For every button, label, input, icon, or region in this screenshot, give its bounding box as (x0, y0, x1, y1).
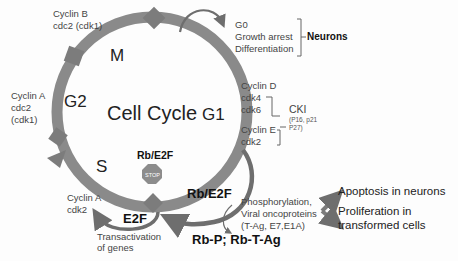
fork-arrow-down-icon (322, 211, 335, 222)
cdk6-label: cdk6 (241, 104, 261, 115)
viral-oncoproteins-label: Viral oncoproteins (241, 208, 317, 219)
oncoprotein-list-label: (T-Ag, E7,E1A) (241, 220, 305, 231)
transformed-cells-label: transformed cells (338, 219, 426, 231)
fork-arrow-up-icon (322, 198, 335, 211)
cell-cycle-title: Cell Cycle (107, 102, 197, 124)
cyclin-a-g2-label: Cyclin A (11, 90, 46, 101)
cyclin-a-s-label: Cyclin A (67, 192, 102, 203)
e2f-label: E2F (123, 211, 147, 226)
cyclin-d-bracket (266, 97, 280, 116)
phosphorylation-label: Phosphorylation, (241, 196, 312, 207)
phase-g2: G2 (64, 92, 87, 111)
cyclin-a-g2-cdc2-label: cdc2 (11, 102, 31, 113)
diagram-canvas: M G2 G1 S Cell Cycle Cyclin B cdc2 (cdk1… (0, 0, 458, 261)
cki-list-line2: P27) (289, 124, 303, 132)
g0-label: G0 (235, 19, 248, 30)
rb-e2f-stop-label: Rb/E2F (137, 149, 174, 161)
rb-products-label: Rb-P; Rb-T-Ag (192, 232, 281, 247)
phase-g1: G1 (202, 105, 225, 124)
phase-m: M (110, 46, 124, 65)
cyclin-e-bracket (277, 127, 286, 145)
transactivation-label: Transactivation (97, 231, 161, 242)
cyclin-b-cdk-label: cdc2 (cdk1) (53, 20, 102, 31)
cyclin-e-label: Cyclin E (241, 124, 276, 135)
phase-s: S (96, 157, 107, 176)
rb-e2f-label: Rb/E2F (187, 186, 232, 201)
cdk4-label: cdk4 (241, 92, 261, 103)
stop-sign-text: STOP (145, 172, 160, 178)
cyclin-a-s-cdk2-label: cdk2 (67, 204, 87, 215)
neurons-label: Neurons (307, 31, 348, 42)
differentiation-label: Differentiation (235, 43, 293, 54)
checkpoint-marker-m-g1 (143, 7, 166, 30)
cki-list-line1: (P16, p21 (289, 116, 318, 124)
of-genes-label: of genes (97, 242, 134, 253)
proliferation-label: Proliferation in (338, 205, 412, 217)
cyclin-d-label: Cyclin D (241, 80, 277, 91)
cki-label: CKI (289, 103, 307, 115)
ring-arrowhead-icon (47, 150, 66, 168)
cyclin-a-g2-cdk1-label: (cdk1) (11, 114, 37, 125)
growth-arrest-label: Growth arrest (235, 31, 293, 42)
cyclin-b-label: Cyclin B (53, 8, 88, 19)
g0-bracket (297, 19, 306, 56)
apoptosis-label: Apoptosis in neurons (338, 185, 446, 197)
cyclin-e-cdk2-label: cdk2 (241, 136, 261, 147)
cell-cycle-diagram: M G2 G1 S Cell Cycle Cyclin B cdc2 (cdk1… (0, 0, 458, 261)
